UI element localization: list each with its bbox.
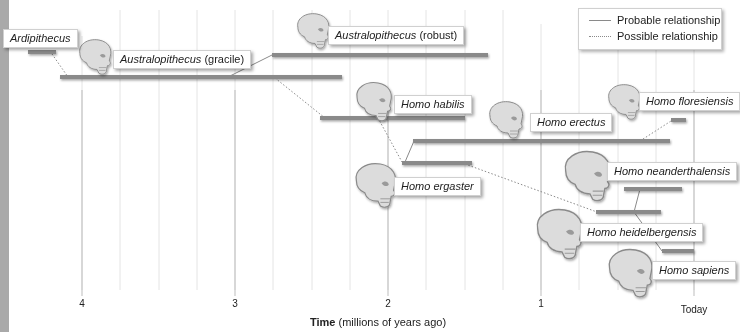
x-tick-1: 1	[538, 298, 544, 309]
label-homo-heidelbergensis: Homo heidelbergensis	[580, 223, 703, 242]
label-homo-neanderthalensis: Homo neanderthalensis	[607, 162, 737, 181]
label-australopithecus-gracile-qualifier: (gracile)	[201, 53, 244, 65]
skull-icon-homo-heidelbergensis	[537, 210, 581, 259]
skull-icon-homo-erectus	[490, 102, 523, 138]
skull-icon-homo-sapiens	[609, 250, 652, 297]
legend-entry-possible: Possible relationship	[589, 30, 718, 42]
solid-line-icon	[589, 20, 611, 21]
x-axis-label-units: (millions of years ago)	[335, 316, 446, 328]
label-homo-floresiensis: Homo floresiensis	[639, 92, 740, 111]
legend: Probable relationship Possible relations…	[578, 8, 722, 50]
x-axis-label-bold: Time	[310, 316, 335, 328]
label-homo-erectus: Homo erectus	[530, 113, 612, 132]
label-ardipithecus-genus: Ardipithecus	[10, 32, 71, 44]
label-homo-ergaster: Homo ergaster	[394, 177, 481, 196]
label-homo-habilis: Homo habilis	[394, 95, 472, 114]
label-australopithecus-robust: Australopithecus (robust)	[328, 26, 464, 45]
label-ardipithecus: Ardipithecus	[3, 29, 78, 48]
label-australopithecus-robust-qualifier: (robust)	[416, 29, 457, 41]
x-tick-2: 2	[385, 298, 391, 309]
x-tick-today: Today	[681, 304, 708, 315]
skull-icon-australopithecus-gracile	[80, 40, 111, 75]
label-homo-sapiens: Homo sapiens	[652, 261, 736, 280]
x-tick-3: 3	[232, 298, 238, 309]
x-axis-label: Time (millions of years ago)	[310, 316, 446, 328]
skull-icon-australopithecus-robust	[298, 14, 329, 49]
legend-entry-probable: Probable relationship	[589, 14, 720, 26]
skull-icon-homo-habilis	[357, 83, 391, 121]
x-tick-4: 4	[79, 298, 85, 309]
label-australopithecus-gracile: Australopithecus (gracile)	[113, 50, 251, 69]
skull-icon-homo-ergaster	[356, 164, 395, 208]
skull-icon-homo-floresiensis	[609, 85, 640, 120]
skull-icon-homo-neanderthalensis	[565, 152, 609, 201]
dotted-line-icon	[589, 36, 611, 37]
label-australopithecus-robust-genus: Australopithecus	[335, 29, 416, 41]
species-bars	[28, 52, 694, 251]
label-australopithecus-gracile-genus: Australopithecus	[120, 53, 201, 65]
